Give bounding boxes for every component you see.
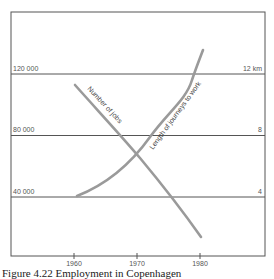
y-left-label-120000: 120 000: [13, 65, 38, 72]
y-right-label-8: 8: [258, 126, 262, 133]
y-left-label-80000: 80 000: [13, 126, 35, 133]
x-label-1980: 1980: [192, 260, 208, 267]
journey-curve: [77, 50, 203, 196]
y-right-label-4: 4: [258, 188, 262, 195]
y-left-label-40000: 40 000: [13, 188, 35, 195]
figure-caption: Figure 4.22 Employment in Copenhagen: [2, 267, 181, 279]
x-label-1970: 1970: [129, 260, 145, 267]
journey-curve-label: Length of journeys to work: [148, 80, 203, 152]
x-label-1960: 1960: [66, 260, 82, 267]
y-right-label-12: 12 km: [243, 65, 262, 72]
plot-frame: [11, 12, 265, 256]
